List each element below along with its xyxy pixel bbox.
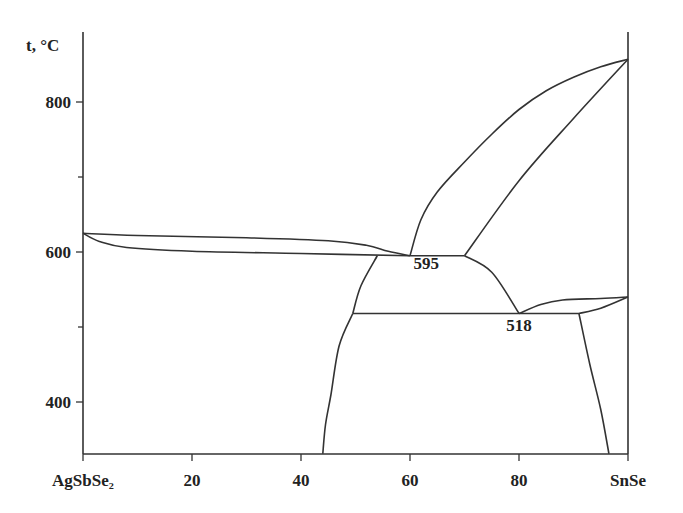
curve-liquidus-right	[410, 59, 628, 256]
annotations: 595518	[414, 254, 532, 335]
x-tick-label: 40	[293, 471, 310, 490]
tick-labels: AgSbSe₂20406080SnSe800600400	[46, 93, 647, 490]
x-tick-label: 60	[402, 471, 419, 490]
ticks	[76, 102, 628, 461]
curve-boundary-595-518	[465, 256, 520, 314]
y-tick-label: 600	[46, 243, 72, 262]
phase-curves	[83, 59, 628, 454]
x-tick-label: AgSbSe₂	[52, 471, 114, 490]
y-axis-label: t, °C	[26, 36, 59, 55]
curve-solvus-right	[579, 314, 609, 454]
curve-solvus-left-upper	[353, 256, 378, 314]
x-tick-label: SnSe	[610, 471, 646, 490]
curve-solvus-left-lower	[323, 314, 353, 454]
curve-upper-right-curve	[519, 297, 628, 314]
phase-diagram-chart: AgSbSe₂20406080SnSe800600400 t, °C 59551…	[0, 0, 683, 513]
y-tick-label: 800	[46, 93, 72, 112]
curve-solidus-right	[465, 59, 629, 256]
x-tick-label: 20	[184, 471, 201, 490]
annotation-595: 595	[414, 254, 440, 273]
annotation-518: 518	[506, 316, 532, 335]
x-tick-label: 80	[511, 471, 528, 490]
y-tick-label: 400	[46, 393, 72, 412]
